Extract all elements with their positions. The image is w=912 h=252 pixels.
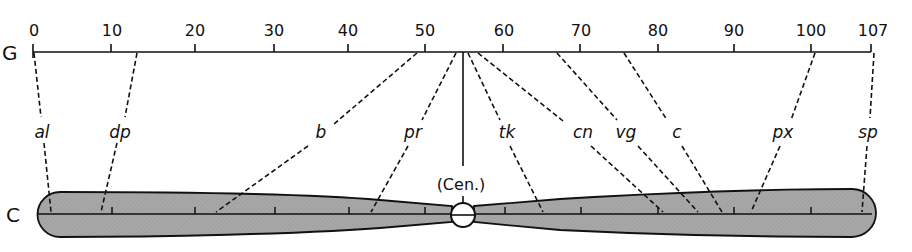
- tick-label-100: 100: [796, 21, 827, 40]
- tick-label-10: 10: [102, 21, 122, 40]
- gene-label-vg: vg: [616, 122, 637, 142]
- gene-label-cn: cn: [573, 122, 593, 142]
- gene-label-sp: sp: [858, 122, 878, 142]
- genetic-map-ticks: [33, 44, 871, 58]
- gene-label-pr: pr: [403, 122, 423, 142]
- tick-label-70: 70: [571, 21, 591, 40]
- gene-label-al: al: [34, 122, 49, 142]
- genetic-map-label: G: [2, 41, 18, 65]
- genetic-map-tick-labels: 0 10 20 30 40 50 60 70 80 90 100 107: [29, 21, 888, 40]
- gene-labels: al dp b pr tk cn vg c px sp: [34, 122, 878, 142]
- tick-label-90: 90: [724, 21, 744, 40]
- tick-label-40: 40: [338, 21, 358, 40]
- centromere: [451, 203, 475, 227]
- centromere-label: (Cen.): [437, 175, 486, 194]
- tick-label-80: 80: [648, 21, 668, 40]
- chromosome: C: [6, 189, 876, 237]
- tick-label-107: 107: [858, 21, 889, 40]
- gene-label-px: px: [772, 122, 795, 142]
- tick-label-20: 20: [185, 21, 205, 40]
- chromosome-map-diagram: G 0 10 20 30 40 50 60 70 80 90: [0, 0, 912, 252]
- gene-label-tk: tk: [499, 122, 517, 142]
- gene-label-dp: dp: [109, 122, 131, 142]
- gene-label-b: b: [316, 122, 327, 142]
- chromosome-right-arm: [474, 189, 876, 237]
- tick-label-60: 60: [494, 21, 514, 40]
- centromere-connector: (Cen.): [437, 52, 486, 203]
- genetic-map-axis: G 0 10 20 30 40 50 60 70 80 90: [2, 21, 888, 65]
- gene-label-c: c: [672, 122, 682, 142]
- tick-label-0: 0: [29, 21, 39, 40]
- tick-label-50: 50: [415, 21, 435, 40]
- chromosome-label: C: [6, 203, 20, 227]
- tick-label-30: 30: [264, 21, 284, 40]
